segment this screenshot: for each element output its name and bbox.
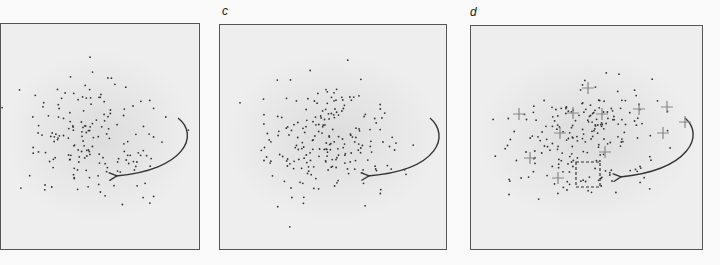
cross-marker-icon <box>554 127 566 139</box>
cross-marker-icon <box>633 103 645 115</box>
cross-marker-icon <box>657 127 669 139</box>
cross-marker-icon <box>582 82 594 94</box>
arrow-icon <box>620 118 693 177</box>
cross-marker-icon <box>552 172 564 184</box>
cross-marker-icon <box>599 146 611 158</box>
cross-marker-icon <box>513 108 525 120</box>
cross-marker-icon <box>524 152 536 164</box>
scatter-overlay <box>0 0 720 265</box>
arrow-icon <box>116 118 187 176</box>
cross-marker-icon <box>596 108 608 120</box>
arrow-icon <box>368 118 439 176</box>
cross-marker-icon <box>679 116 691 128</box>
cross-marker-icon <box>567 107 579 119</box>
selection-box <box>576 162 600 187</box>
cross-marker-icon <box>661 101 673 113</box>
